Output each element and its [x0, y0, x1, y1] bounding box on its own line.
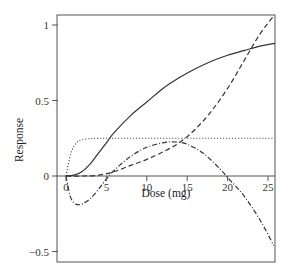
plot-series	[66, 16, 276, 246]
series-dashed-line	[66, 16, 274, 176]
y-tick-label: −0.5	[29, 246, 49, 258]
x-tick-label: 20	[222, 181, 234, 193]
y-tick-label: 0.5	[35, 95, 49, 107]
dose-response-chart: 10.50−0.50510152025 Dose (mg) Response	[0, 0, 290, 271]
x-tick-label: 5	[104, 181, 110, 193]
series-dotted-line	[66, 138, 274, 176]
x-tick-label: 25	[263, 181, 275, 193]
y-axis-label: Response	[13, 118, 26, 162]
y-tick-label: 1	[44, 19, 50, 31]
x-tick-label: 0	[63, 181, 69, 193]
plot-frame	[57, 15, 275, 262]
plot-border	[57, 15, 275, 262]
x-axis-label: Dose (mg)	[142, 187, 191, 200]
y-tick-label: 0	[44, 170, 50, 182]
series-solid-line	[66, 43, 276, 176]
